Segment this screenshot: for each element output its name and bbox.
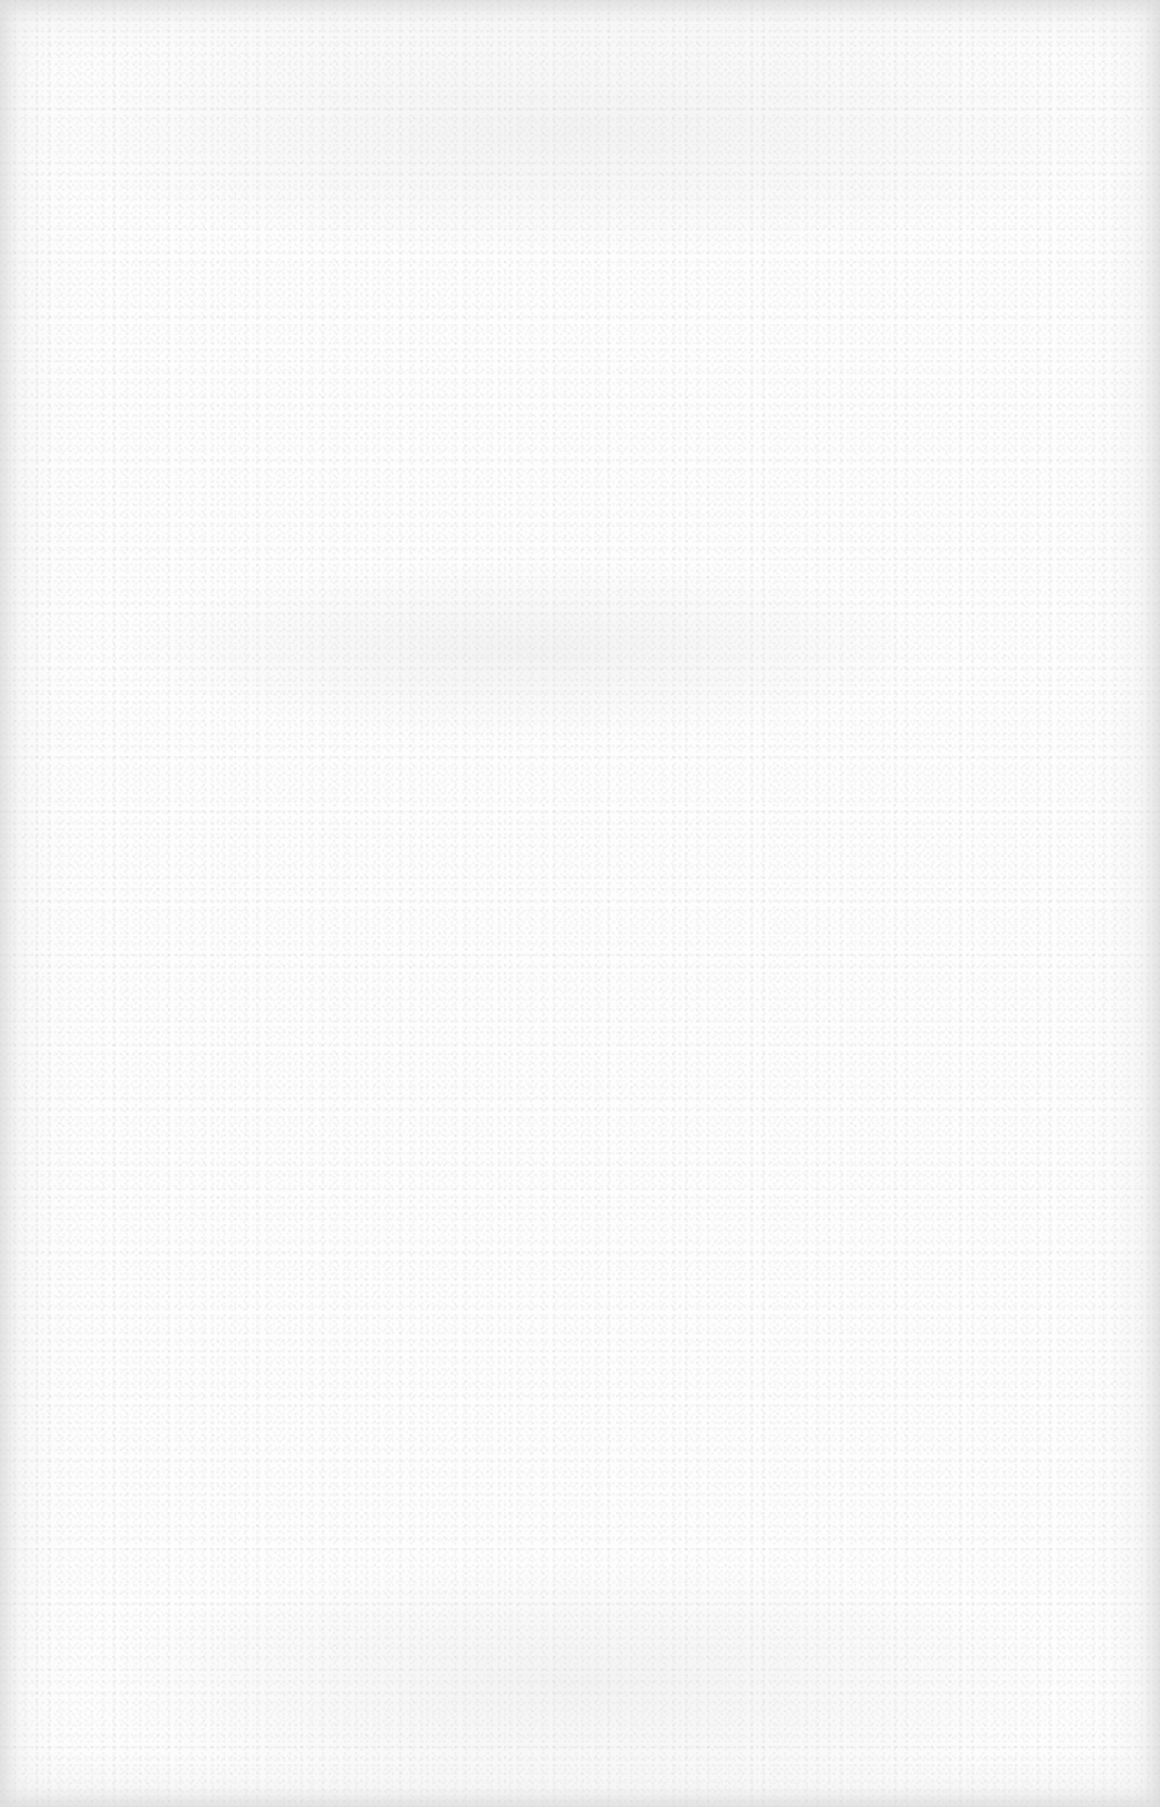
page-content bbox=[0, 0, 1160, 1807]
scanned-page bbox=[0, 0, 1160, 1807]
